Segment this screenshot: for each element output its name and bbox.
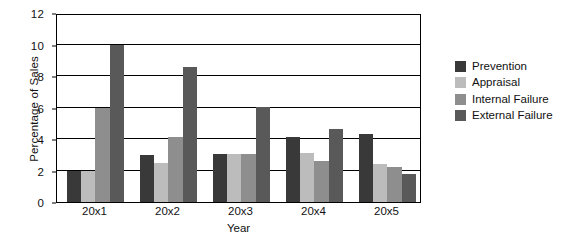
legend-swatch-icon bbox=[455, 77, 466, 88]
bar bbox=[227, 154, 241, 202]
bar bbox=[140, 155, 154, 202]
bar bbox=[373, 164, 387, 202]
legend-swatch-icon bbox=[455, 94, 466, 105]
bar bbox=[183, 67, 197, 202]
bar bbox=[359, 134, 373, 203]
legend-label: Appraisal bbox=[472, 77, 520, 89]
x-axis-tick-label: 20x1 bbox=[82, 205, 107, 217]
legend-swatch-icon bbox=[455, 61, 466, 72]
legend-label: Internal Failure bbox=[472, 94, 549, 106]
legend-item: Internal Failure bbox=[455, 91, 570, 108]
bar bbox=[300, 153, 314, 202]
x-axis-tick-label: 20x3 bbox=[228, 205, 253, 217]
legend-item: External Failure bbox=[455, 108, 570, 125]
bar bbox=[256, 107, 270, 202]
bar bbox=[213, 154, 227, 202]
bar bbox=[286, 137, 300, 202]
legend-item: Prevention bbox=[455, 58, 570, 75]
y-axis-tick-marks bbox=[0, 14, 56, 203]
legend-label: Prevention bbox=[472, 61, 527, 73]
bar bbox=[154, 163, 168, 202]
bar-group bbox=[140, 15, 197, 202]
bar bbox=[387, 167, 401, 202]
bar bbox=[168, 137, 182, 202]
bar bbox=[402, 174, 416, 202]
x-axis-tick-label: 20x4 bbox=[301, 205, 326, 217]
bar-group bbox=[286, 15, 343, 202]
bar-group bbox=[67, 15, 124, 202]
chart-legend: PreventionAppraisalInternal FailureExter… bbox=[455, 58, 570, 124]
legend-label: External Failure bbox=[472, 110, 553, 122]
bar bbox=[95, 108, 109, 203]
x-axis-tick-label: 20x2 bbox=[155, 205, 180, 217]
x-axis-tick-label: 20x5 bbox=[374, 205, 399, 217]
plot-area bbox=[56, 14, 421, 203]
bar bbox=[329, 129, 343, 202]
bar bbox=[314, 161, 328, 202]
plot-inner bbox=[57, 15, 420, 202]
bar bbox=[67, 171, 81, 203]
legend-swatch-icon bbox=[455, 110, 466, 121]
x-axis-tick-labels: 20x120x220x320x420x5 bbox=[56, 205, 421, 223]
bar bbox=[81, 171, 95, 203]
legend-item: Appraisal bbox=[455, 75, 570, 92]
bar-group bbox=[213, 15, 270, 202]
bar-chart: Percentage of Sales 024681012 20x120x220… bbox=[0, 0, 573, 245]
x-axis-title: Year bbox=[56, 222, 421, 234]
bar-group bbox=[359, 15, 416, 202]
bar bbox=[241, 154, 255, 202]
bar bbox=[110, 45, 124, 203]
